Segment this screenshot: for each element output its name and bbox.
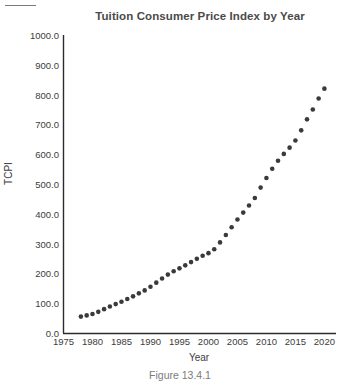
y-tick-label: 800.0	[15, 89, 59, 100]
data-point-group	[79, 86, 327, 319]
data-point	[189, 260, 194, 265]
y-tick-label: 200.0	[15, 268, 59, 279]
y-axis-title: TCPI	[3, 150, 14, 198]
x-tick-label: 2000	[198, 336, 219, 347]
x-tick-label: 1975	[53, 336, 74, 347]
data-point	[125, 297, 130, 302]
data-point	[171, 269, 176, 274]
data-point	[113, 302, 118, 307]
x-axis-title: Year	[63, 352, 335, 363]
data-point	[322, 86, 327, 91]
data-point	[218, 240, 223, 245]
y-tick-label: 300.0	[15, 238, 59, 249]
data-point	[282, 152, 287, 157]
data-point	[229, 225, 234, 230]
y-tick-label: 700.0	[15, 119, 59, 130]
data-point	[305, 117, 310, 122]
data-point	[311, 107, 316, 112]
data-point	[258, 185, 263, 190]
data-point	[119, 299, 124, 304]
data-point	[142, 288, 147, 293]
x-tick-label: 2010	[256, 336, 277, 347]
plot-axes	[63, 35, 336, 334]
data-point	[276, 158, 281, 163]
data-point	[241, 210, 246, 215]
y-tick-label: 600.0	[15, 149, 59, 160]
data-point	[96, 310, 101, 315]
data-point	[299, 128, 304, 133]
y-tick-label: 100.0	[15, 298, 59, 309]
x-tick-label: 1980	[82, 336, 103, 347]
y-tick-label: 400.0	[15, 208, 59, 219]
data-point	[212, 247, 217, 252]
y-tick-label: 1000.0	[15, 30, 59, 41]
data-point	[183, 263, 188, 268]
data-point	[102, 307, 107, 312]
x-tick-label: 2015	[285, 336, 306, 347]
data-point	[253, 196, 258, 201]
data-point	[270, 167, 275, 172]
data-point	[316, 96, 321, 101]
data-point	[247, 203, 252, 208]
y-tick-label: 500.0	[15, 179, 59, 190]
data-point	[154, 280, 159, 285]
data-point	[200, 254, 205, 259]
data-point	[264, 176, 269, 181]
data-point	[293, 138, 298, 143]
data-point	[206, 251, 211, 256]
data-point	[235, 217, 240, 222]
data-point	[108, 304, 113, 309]
x-tick-label: 1985	[111, 336, 132, 347]
x-tick-label: 1995	[169, 336, 190, 347]
x-tick-label: 1990	[140, 336, 161, 347]
data-point	[90, 312, 95, 317]
y-tick-label: 900.0	[15, 59, 59, 70]
data-point	[79, 314, 84, 319]
data-point	[84, 313, 89, 318]
data-point	[177, 266, 182, 271]
figure-caption: Figure 13.4.1	[0, 369, 360, 381]
data-point	[160, 276, 165, 281]
data-point	[195, 257, 200, 262]
data-point	[131, 294, 136, 299]
figure-container: Tuition Consumer Price Index by Year 0.0…	[0, 0, 360, 386]
x-tick-label: 2005	[227, 336, 248, 347]
data-point	[166, 272, 171, 277]
data-point	[287, 145, 292, 150]
data-point	[148, 285, 153, 290]
data-point	[137, 291, 142, 296]
data-point	[224, 233, 229, 238]
y-axis-tick-labels: 0.0100.0200.0300.0400.0500.0600.0700.080…	[12, 0, 59, 386]
x-tick-label: 2020	[314, 336, 335, 347]
